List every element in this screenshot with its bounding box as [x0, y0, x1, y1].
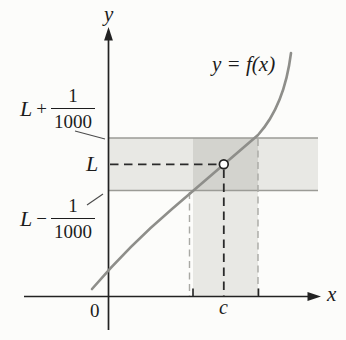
- limit-point-marker: [219, 160, 228, 169]
- curve-equation-label: y = f(x): [212, 54, 275, 75]
- upper-band-label-fraction: 1 1000: [51, 86, 95, 131]
- y-axis-label: y: [104, 4, 113, 25]
- origin-label: 0: [90, 301, 100, 320]
- lower-band-label-fraction: 1 1000: [51, 196, 95, 241]
- lower-band-label-var: L: [20, 206, 32, 232]
- x-axis-label: x: [327, 284, 336, 305]
- upper-label-pointer-line: [75, 131, 105, 139]
- upper-band-label: L + 1 1000: [20, 86, 95, 131]
- plot-canvas: [0, 0, 346, 340]
- y-axis-arrow-icon: [104, 27, 113, 41]
- c-tick-label: c: [219, 297, 228, 317]
- fraction-numerator: 1: [65, 196, 81, 218]
- limit-epsilon-delta-figure: y x 0 c y = f(x) L + 1 1000 L L − 1 1000: [0, 0, 346, 340]
- x-axis-arrow-icon: [308, 292, 322, 301]
- lower-band-label-operator: −: [35, 208, 48, 230]
- fraction-denominator: 1000: [51, 108, 95, 131]
- lower-band-label: L − 1 1000: [20, 196, 95, 241]
- limit-value-label: L: [86, 153, 98, 175]
- upper-band-label-var: L: [20, 96, 32, 122]
- fraction-numerator: 1: [65, 86, 81, 108]
- upper-band-label-operator: +: [35, 98, 48, 120]
- fraction-denominator: 1000: [51, 218, 95, 241]
